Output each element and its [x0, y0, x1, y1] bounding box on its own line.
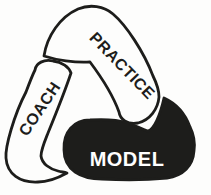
model-label: MODEL [90, 148, 165, 170]
cycle-diagram: PRACTICE COACH MODEL [0, 0, 211, 195]
cycle-diagram-canvas: PRACTICE COACH MODEL [0, 0, 211, 195]
